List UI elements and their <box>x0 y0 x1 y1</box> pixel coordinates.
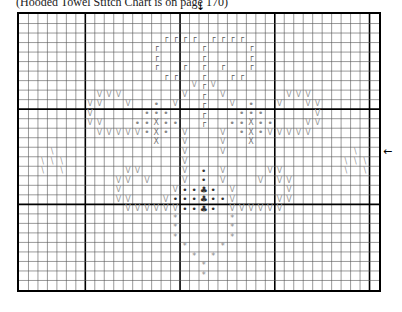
stitch-symbol-star: * <box>227 223 236 233</box>
stitch-symbol-v: V <box>246 204 255 214</box>
stitch-symbol-v: V <box>114 176 123 186</box>
stitch-symbol-r: ┌ <box>218 33 227 43</box>
stitch-symbol-v: V <box>104 90 113 100</box>
stitch-symbol-star: * <box>227 233 236 243</box>
stitch-symbol-bdot: • <box>199 176 208 186</box>
stitch-symbol-r: ┌ <box>246 43 255 53</box>
stitch-symbol-r: ┌ <box>208 33 217 43</box>
stitch-symbol-club: ♣ <box>199 195 208 205</box>
stitch-symbol-r: ┌ <box>199 62 208 72</box>
stitch-symbol-v: V <box>265 204 274 214</box>
stitch-symbol-v: V <box>142 204 151 214</box>
stitch-symbol-v: V <box>275 204 284 214</box>
stitch-symbol-r: ┌ <box>199 52 208 62</box>
stitch-symbol-v: V <box>123 100 132 110</box>
stitch-symbol-star: * <box>171 233 180 243</box>
stitch-symbol-v: V <box>123 166 132 176</box>
stitch-symbol-v: V <box>303 119 312 129</box>
stitch-symbol-v: V <box>284 90 293 100</box>
stitch-symbol-bk: \ <box>351 147 360 157</box>
stitch-symbol-v: V <box>180 166 189 176</box>
stitch-symbol-bk: \ <box>341 157 350 167</box>
stitch-symbol-v: V <box>218 90 227 100</box>
stitch-symbol-v: V <box>218 147 227 157</box>
stitch-symbol-bk: \ <box>47 147 56 157</box>
stitch-symbol-v: V <box>180 147 189 157</box>
stitch-symbol-x: X <box>246 119 255 129</box>
stitch-symbol-v: V <box>180 157 189 167</box>
stitch-symbol-v: V <box>133 204 142 214</box>
stitch-symbol-v: V <box>303 100 312 110</box>
stitch-symbol-v: V <box>227 100 236 110</box>
stitch-symbol-bdot: • <box>171 195 180 205</box>
stitch-symbol-v: V <box>190 81 199 91</box>
stitch-symbol-v: V <box>208 81 217 91</box>
stitch-symbol-v: V <box>265 166 274 176</box>
stitch-symbol-dot: • <box>246 109 255 119</box>
stitch-symbol-v: V <box>275 128 284 138</box>
stitch-symbol-bk: \ <box>38 166 47 176</box>
stitch-symbol-v: V <box>85 119 94 129</box>
stitch-symbol-v: V <box>95 90 104 100</box>
stitch-symbol-star: * <box>208 252 217 262</box>
stitch-symbol-v: V <box>275 195 284 205</box>
stitch-symbol-r: ┌ <box>237 33 246 43</box>
stitch-symbol-star: * <box>171 214 180 224</box>
stitch-symbol-r: ┌ <box>152 62 161 72</box>
stitch-symbol-r: ┌ <box>246 62 255 72</box>
stitch-symbol-dot: • <box>265 119 274 129</box>
stitch-symbol-dot: • <box>237 128 246 138</box>
stitch-symbol-v: V <box>133 128 142 138</box>
stitch-symbol-bdot: • <box>218 195 227 205</box>
stitch-symbol-v: V <box>275 100 284 110</box>
stitch-symbol-v: V <box>104 128 113 138</box>
stitch-symbol-v: V <box>95 128 104 138</box>
stitch-symbol-v: V <box>114 128 123 138</box>
center-column-arrow-icon: ↓ <box>196 1 205 12</box>
stitch-symbol-v: V <box>180 138 189 148</box>
stitch-symbol-r: ┌ <box>199 90 208 100</box>
stitch-symbol-v: V <box>123 128 132 138</box>
stitch-symbol-r: ┌ <box>152 43 161 53</box>
stitch-symbol-v: V <box>123 176 132 186</box>
stitch-symbol-v: V <box>171 204 180 214</box>
stitch-symbol-bdot: • <box>190 204 199 214</box>
stitch-symbol-v: V <box>218 166 227 176</box>
stitch-symbol-v: V <box>265 128 274 138</box>
stitch-symbol-v: V <box>313 119 322 129</box>
stitch-symbol-v: V <box>133 166 142 176</box>
stitch-symbol-r: ┌ <box>227 71 236 81</box>
stitch-symbol-r: ┌ <box>227 33 236 43</box>
stitch-symbol-r: ┌ <box>218 62 227 72</box>
stitch-symbol-v: V <box>161 195 170 205</box>
stitch-symbol-v: V <box>294 128 303 138</box>
stitch-symbol-v: V <box>284 185 293 195</box>
stitch-symbol-v: V <box>256 204 265 214</box>
stitch-symbol-r: ┌ <box>161 33 170 43</box>
stitch-symbol-v: V <box>114 90 123 100</box>
stitch-symbol-v: V <box>256 176 265 186</box>
stitch-symbol-dot: • <box>227 119 236 129</box>
stitch-symbol-r: ┌ <box>180 33 189 43</box>
stitch-symbol-v: V <box>114 185 123 195</box>
stitch-symbol-v: V <box>95 100 104 110</box>
stitch-symbol-bk: \ <box>57 166 66 176</box>
stitch-symbol-r: ┌ <box>199 71 208 81</box>
stitch-symbol-v: V <box>303 90 312 100</box>
stitch-symbol-star: * <box>171 223 180 233</box>
stitch-symbol-bk: \ <box>47 157 56 167</box>
stitch-symbol-v: V <box>171 100 180 110</box>
stitch-symbol-v: V <box>284 195 293 205</box>
stitch-symbol-bk: \ <box>351 157 360 167</box>
stitch-symbol-x: X <box>246 128 255 138</box>
stitch-symbol-star: * <box>199 261 208 271</box>
stitch-symbol-r: ┌ <box>199 109 208 119</box>
stitch-symbol-bk: \ <box>360 166 369 176</box>
stitch-symbol-v: V <box>85 109 94 119</box>
stitch-symbol-r: ┌ <box>161 71 170 81</box>
stitch-symbol-r: ┌ <box>199 43 208 53</box>
stitch-symbol-v: V <box>218 138 227 148</box>
stitch-symbol-x: X <box>152 128 161 138</box>
stitch-symbol-bdot: • <box>208 195 217 205</box>
stitch-symbol-v: V <box>313 109 322 119</box>
